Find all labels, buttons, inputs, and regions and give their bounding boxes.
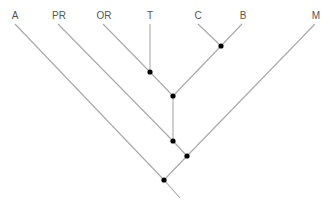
node-n-pr <box>170 138 175 143</box>
edge-a-to-root <box>15 24 164 180</box>
node-n-or-t <box>147 69 152 74</box>
taxon-label-t: T <box>147 11 153 21</box>
taxon-label-or: OR <box>97 11 112 21</box>
taxon-label-c: C <box>194 11 201 21</box>
edge-m-to-n_m <box>187 24 315 156</box>
edge-n_m-to-root <box>164 156 187 180</box>
edge-n_pr-to-n_m <box>173 141 187 156</box>
root-stem <box>164 180 180 198</box>
node-n-cb <box>218 43 223 48</box>
tree-edges <box>15 24 315 198</box>
taxon-label-a: A <box>12 11 19 21</box>
edge-n_cb-to-n_ort_cb <box>173 46 221 96</box>
cladogram <box>0 0 326 211</box>
edge-b-to-n_cb <box>221 24 242 46</box>
taxon-label-pr: PR <box>52 11 66 21</box>
node-n-m <box>184 153 189 158</box>
tree-nodes <box>147 43 223 182</box>
edge-pr-to-n_pr <box>58 24 173 141</box>
edge-c-to-n_cb <box>198 24 221 46</box>
node-n-ort-cb <box>170 93 175 98</box>
edge-n_or_t-to-n_ort_cb <box>150 72 173 96</box>
taxon-label-m: M <box>312 11 320 21</box>
edge-or-to-n_or_t <box>103 24 150 72</box>
node-root <box>161 177 166 182</box>
taxon-label-b: B <box>240 11 247 21</box>
